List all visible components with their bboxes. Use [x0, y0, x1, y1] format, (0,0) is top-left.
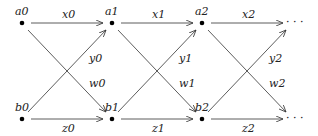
edge-label-y0: y0	[88, 52, 102, 65]
node-label-b2: b2	[195, 101, 209, 114]
node-b2	[200, 117, 205, 122]
edge-label-w2: w2	[269, 77, 285, 90]
lattice-diagram: a0 a1 a2 b0 b1 b2 · · · · · · x0 x1 x2 z…	[0, 0, 318, 136]
node-b1	[110, 117, 115, 122]
edge-label-y2: y2	[268, 52, 282, 65]
edge-label-w1: w1	[179, 77, 195, 90]
node-a1	[110, 21, 115, 26]
edge-label-y1: y1	[178, 52, 192, 65]
node-label-b0: b0	[15, 101, 29, 114]
node-a2	[200, 21, 205, 26]
edge-label-w0: w0	[89, 77, 105, 90]
node-label-a0: a0	[15, 5, 29, 18]
node-label-a1: a1	[105, 5, 119, 18]
edge-label-z1: z1	[151, 122, 165, 135]
edge-label-x1: x1	[152, 8, 165, 21]
edge-label-z2: z2	[241, 122, 255, 135]
node-a0	[20, 21, 25, 26]
node-label-a2: a2	[195, 5, 209, 18]
edge-label-z0: z0	[61, 122, 75, 135]
continuation-bottom: · · ·	[286, 112, 303, 125]
continuation-top: · · ·	[286, 16, 303, 29]
edge-label-x0: x0	[62, 8, 75, 21]
node-label-b1: b1	[105, 101, 119, 114]
edge-label-x2: x2	[242, 8, 255, 21]
node-b0	[20, 117, 25, 122]
